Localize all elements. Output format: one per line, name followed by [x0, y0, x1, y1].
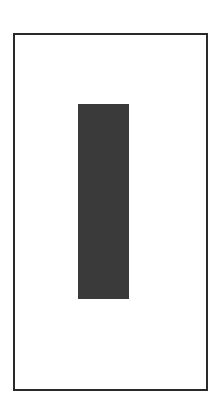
- dark-rectangle: [78, 104, 129, 299]
